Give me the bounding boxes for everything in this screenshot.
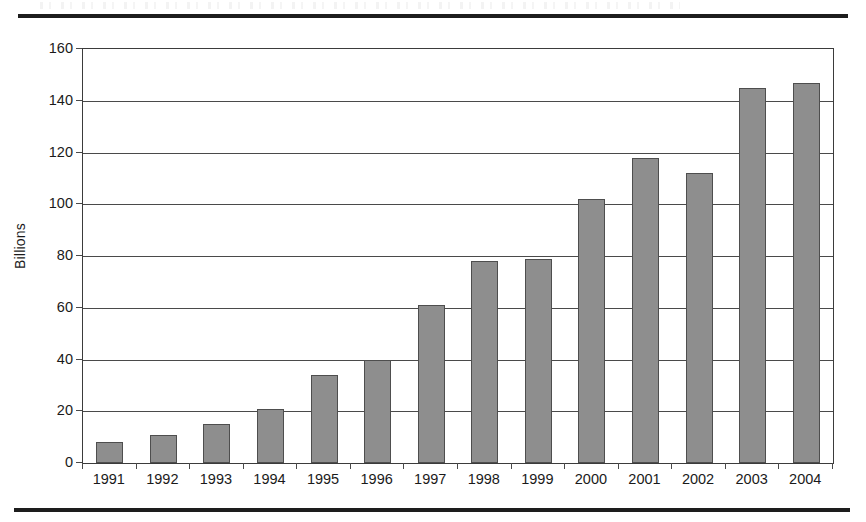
x-axis-tick-label: 2003	[722, 472, 782, 487]
x-axis-tick-label: 1991	[79, 472, 139, 487]
bar-series	[83, 49, 833, 463]
x-axis-tick-mark	[511, 463, 512, 469]
bar-1992	[150, 435, 177, 463]
x-axis-tick-mark	[243, 463, 244, 469]
page-rule-bottom	[14, 508, 850, 512]
x-axis-tick-mark	[832, 463, 833, 469]
x-axis-tick-label: 1992	[132, 472, 192, 487]
x-axis-tick-mark	[296, 463, 297, 469]
y-axis-tick-label: 120	[29, 145, 73, 160]
x-axis-tick-label: 1995	[293, 472, 353, 487]
bar-1991	[96, 442, 123, 463]
x-axis-tick-label: 2001	[615, 472, 675, 487]
bar-2004	[793, 83, 820, 463]
bar-2001	[632, 158, 659, 463]
x-axis-tick-mark	[671, 463, 672, 469]
bar-1994	[257, 409, 284, 463]
x-axis-tick-label: 2004	[775, 472, 835, 487]
page-rule-top	[18, 14, 848, 18]
x-axis-tick-label: 1994	[240, 472, 300, 487]
x-axis-tick-label: 2000	[561, 472, 621, 487]
y-axis-title: Billions	[12, 198, 28, 294]
x-axis-tick-mark	[136, 463, 137, 469]
x-axis-tick-label: 1996	[347, 472, 407, 487]
x-axis-tick-mark	[82, 463, 83, 469]
y-axis-tick-label: 40	[29, 352, 73, 367]
x-axis-tick-mark	[564, 463, 565, 469]
x-axis-tick-mark	[403, 463, 404, 469]
y-axis-tick-label: 80	[29, 248, 73, 263]
plot-area	[82, 48, 834, 464]
scan-bleedthrough-artifact	[40, 2, 680, 9]
x-axis-tick-label: 1997	[400, 472, 460, 487]
bar-1997	[418, 305, 445, 463]
bar-2002	[686, 173, 713, 463]
bar-2000	[578, 199, 605, 463]
bar-2003	[739, 88, 766, 463]
x-axis-tick-label: 2002	[668, 472, 728, 487]
x-axis-tick-label: 1993	[186, 472, 246, 487]
bar-1996	[364, 360, 391, 464]
y-axis-tick-label: 0	[29, 455, 73, 470]
bar-1998	[471, 261, 498, 463]
x-axis-tick-mark	[725, 463, 726, 469]
x-axis-tick-mark	[189, 463, 190, 469]
x-axis-tick-mark	[350, 463, 351, 469]
y-axis-tick-label: 60	[29, 300, 73, 315]
x-axis-tick-label: 1999	[507, 472, 567, 487]
bar-1999	[525, 259, 552, 463]
x-axis-tick-mark	[778, 463, 779, 469]
y-axis-tick-label: 20	[29, 403, 73, 418]
y-axis-tick-label: 160	[29, 41, 73, 56]
bar-1995	[311, 375, 338, 463]
bar-1993	[203, 424, 230, 463]
y-axis-tick-label: 140	[29, 93, 73, 108]
bar-chart-figure: Billions 020406080100120140160 199119921…	[0, 26, 866, 500]
y-axis-tick-label: 100	[29, 196, 73, 211]
x-axis-tick-mark	[618, 463, 619, 469]
x-axis-tick-mark	[457, 463, 458, 469]
x-axis-tick-label: 1998	[454, 472, 514, 487]
